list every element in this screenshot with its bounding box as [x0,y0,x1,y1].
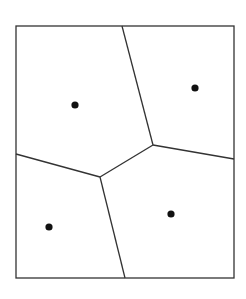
cell-edges [16,26,234,278]
cell-edge [153,145,234,159]
cell-edge [122,26,153,145]
bounding-box [16,26,234,278]
site-bottom-right [167,210,174,217]
site-points [45,84,198,230]
cell-edge [100,177,125,278]
cell-edge [16,154,100,177]
site-top-left [71,101,78,108]
site-top-right [191,84,198,91]
cell-edge [100,145,153,177]
site-bottom-left [45,223,52,230]
voronoi-diagram [0,0,246,299]
